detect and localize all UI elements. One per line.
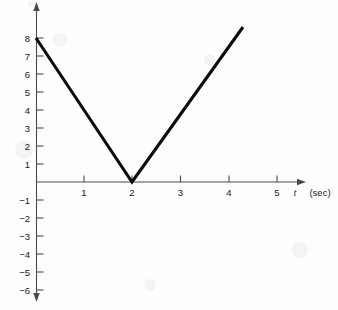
y-tick-label-neg-1: −1 (19, 195, 30, 206)
v-shaped-graph-figure: 8 7 6 5 4 3 2 1 −1 −2 −3 −4 −5 −6 1 (0, 0, 338, 310)
paper-texture (15, 1, 308, 291)
y-axis-bottom-arrowhead (33, 293, 39, 302)
x-tick-label-2: 2 (129, 187, 134, 198)
data-series-v-shape (36, 27, 243, 182)
y-tick-label-neg-2: −2 (19, 213, 30, 224)
x-axis-right-arrowhead (297, 179, 306, 185)
y-tick-label-neg-4: −4 (19, 249, 30, 260)
y-tick-label-7: 7 (25, 51, 30, 62)
x-tick-label-5: 5 (274, 187, 279, 198)
y-tick-label-neg-5: −5 (19, 267, 30, 278)
x-tick-label-4: 4 (226, 187, 231, 198)
v-shape-polyline (36, 27, 243, 182)
x-tick-label-3: 3 (178, 187, 183, 198)
y-tick-label-2: 2 (25, 141, 30, 152)
x-axis-symbol-label: t (294, 188, 297, 198)
y-tick-label-1: 1 (25, 159, 30, 170)
y-tick-label-4: 4 (25, 105, 30, 116)
x-tick-label-1: 1 (81, 187, 86, 198)
y-tick-label-neg-3: −3 (19, 231, 30, 242)
y-tick-label-6: 6 (25, 69, 30, 80)
y-tick-label-8: 8 (25, 33, 30, 44)
y-tick-label-neg-6: −6 (19, 285, 30, 296)
x-axis-unit-label: (sec) (309, 187, 330, 198)
y-tick-label-3: 3 (25, 123, 30, 134)
x-axis: 1 2 3 4 5 t (sec) (37, 176, 331, 199)
chart-page: 8 7 6 5 4 3 2 1 −1 −2 −3 −4 −5 −6 1 (0, 0, 338, 310)
y-tick-label-5: 5 (25, 87, 30, 98)
